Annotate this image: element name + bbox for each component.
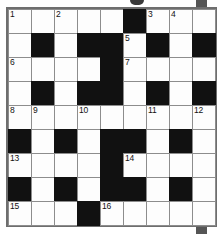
crossword-cell-number: 11: [148, 106, 156, 115]
crossword-cell[interactable]: [100, 9, 124, 34]
crossword-cell-blocked: [100, 57, 124, 82]
crossword-cell-number: 4: [171, 10, 176, 19]
crossword-cell[interactable]: [77, 129, 101, 154]
crossword-cell[interactable]: [31, 9, 55, 34]
crossword-cell[interactable]: [77, 177, 101, 202]
crossword-cell-blocked: [123, 177, 147, 202]
crossword-grid[interactable]: 12345678910111213141516: [8, 9, 215, 225]
crossword-cell-blocked: [146, 33, 170, 58]
crossword-cell[interactable]: [123, 201, 147, 226]
crossword-cell[interactable]: [169, 201, 193, 226]
crossword-cell-number: 7: [125, 58, 130, 67]
scan-artifact-top-blob: [130, 0, 144, 5]
crossword-cell[interactable]: 2: [54, 9, 78, 34]
crossword-cell[interactable]: [31, 129, 55, 154]
crossword-cell[interactable]: [77, 153, 101, 178]
crossword-cell-blocked: [100, 153, 124, 178]
crossword-cell[interactable]: 4: [169, 9, 193, 34]
crossword-cell[interactable]: [77, 9, 101, 34]
crossword-cell[interactable]: [54, 33, 78, 58]
crossword-cell[interactable]: 10: [77, 105, 101, 130]
crossword-cell[interactable]: [123, 105, 147, 130]
crossword-cell[interactable]: [192, 57, 216, 82]
crossword-cell[interactable]: [169, 57, 193, 82]
crossword-cell[interactable]: 13: [8, 153, 32, 178]
crossword-cell[interactable]: [192, 177, 216, 202]
crossword-cell[interactable]: [146, 153, 170, 178]
crossword-cell[interactable]: [54, 201, 78, 226]
crossword-cell[interactable]: 8: [8, 105, 32, 130]
crossword-cell[interactable]: [146, 57, 170, 82]
crossword-cell[interactable]: [146, 177, 170, 202]
crossword-cell[interactable]: [169, 105, 193, 130]
crossword-page: 12345678910111213141516: [0, 0, 224, 234]
crossword-cell-number: 8: [10, 106, 15, 115]
crossword-cell-blocked: [169, 129, 193, 154]
crossword-cell[interactable]: [192, 201, 216, 226]
crossword-cell-blocked: [100, 177, 124, 202]
crossword-cell[interactable]: 11: [146, 105, 170, 130]
crossword-cell-number: 15: [10, 202, 19, 211]
crossword-cell[interactable]: 9: [31, 105, 55, 130]
crossword-cell-blocked: [77, 201, 101, 226]
crossword-cell[interactable]: 15: [8, 201, 32, 226]
crossword-cell[interactable]: 3: [146, 9, 170, 34]
crossword-cell[interactable]: 5: [123, 33, 147, 58]
crossword-cell-blocked: [100, 129, 124, 154]
crossword-cell[interactable]: 1: [8, 9, 32, 34]
crossword-cell-blocked: [54, 129, 78, 154]
crossword-cell[interactable]: [31, 177, 55, 202]
crossword-cell-blocked: [77, 81, 101, 106]
crossword-cell[interactable]: [54, 57, 78, 82]
crossword-cell[interactable]: 16: [100, 201, 124, 226]
crossword-cell-blocked: [8, 177, 32, 202]
crossword-cell[interactable]: [54, 153, 78, 178]
crossword-cell[interactable]: 14: [123, 153, 147, 178]
crossword-cell-blocked: [123, 129, 147, 154]
crossword-cell[interactable]: [169, 81, 193, 106]
crossword-cell-blocked: [169, 177, 193, 202]
crossword-cell[interactable]: [8, 33, 32, 58]
crossword-cell-blocked: [192, 81, 216, 106]
crossword-cell[interactable]: [192, 9, 216, 34]
crossword-cell-blocked: [31, 33, 55, 58]
crossword-cell-number: 6: [10, 58, 15, 67]
crossword-cell[interactable]: [146, 129, 170, 154]
crossword-cell[interactable]: [169, 153, 193, 178]
crossword-cell-number: 9: [33, 106, 38, 115]
crossword-cell[interactable]: 7: [123, 57, 147, 82]
crossword-cell-number: 10: [79, 106, 88, 115]
crossword-cell-number: 12: [194, 106, 203, 115]
crossword-cell[interactable]: [192, 129, 216, 154]
crossword-cell-number: 13: [10, 154, 19, 163]
crossword-cell[interactable]: [100, 105, 124, 130]
crossword-cell-blocked: [100, 81, 124, 106]
crossword-cell-blocked: [31, 81, 55, 106]
crossword-cell-blocked: [54, 177, 78, 202]
crossword-cell[interactable]: [31, 201, 55, 226]
crossword-cell-blocked: [8, 129, 32, 154]
crossword-cell[interactable]: [77, 57, 101, 82]
crossword-cell[interactable]: [31, 57, 55, 82]
crossword-cell[interactable]: 6: [8, 57, 32, 82]
crossword-cell[interactable]: [31, 153, 55, 178]
crossword-cell[interactable]: [54, 81, 78, 106]
crossword-cell-number: 2: [56, 10, 61, 19]
crossword-cell-blocked: [192, 33, 216, 58]
crossword-cell[interactable]: [192, 153, 216, 178]
crossword-cell-number: 3: [148, 10, 153, 19]
crossword-cell-number: 1: [10, 10, 15, 19]
crossword-cell[interactable]: [8, 81, 32, 106]
crossword-cell[interactable]: [169, 33, 193, 58]
crossword-cell-number: 5: [125, 34, 130, 43]
crossword-cell-blocked: [100, 33, 124, 58]
crossword-cell[interactable]: [123, 81, 147, 106]
crossword-cell-blocked: [146, 81, 170, 106]
crossword-cell-number: 16: [102, 202, 111, 211]
crossword-cell[interactable]: 12: [192, 105, 216, 130]
crossword-cell-blocked: [77, 33, 101, 58]
crossword-cell-blocked: [123, 9, 147, 34]
scan-artifact-bottom-tab: [196, 226, 207, 234]
crossword-cell[interactable]: [146, 201, 170, 226]
crossword-cell[interactable]: [54, 105, 78, 130]
